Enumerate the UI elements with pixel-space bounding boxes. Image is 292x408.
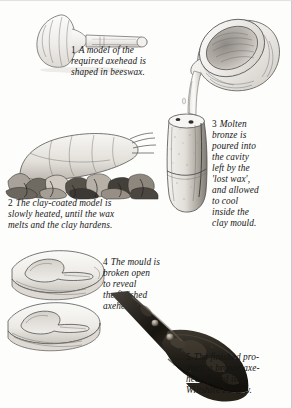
caption-panel-5: 5The finished pro- duct: a bronze axe- h… [186, 352, 290, 396]
caption-number-4: 4 [103, 257, 111, 267]
caption-panel-3: 3Molten bronze is poured into the cavity… [212, 119, 290, 229]
caption-number-2: 2 [8, 198, 16, 208]
illustration-crucible-pouring [170, 5, 292, 117]
caption-number-5: 5 [186, 352, 194, 362]
illustration-clay-model-in-fire [6, 127, 158, 199]
caption-text-1: A model of the required axehead is shape… [71, 45, 146, 77]
caption-text-3: Molten bronze is poured into the cavity … [212, 119, 259, 228]
caption-number-3: 3 [212, 119, 220, 129]
caption-text-2: The clay-coated model is slowly heated, … [8, 198, 114, 230]
caption-number-1: 1 [71, 45, 79, 55]
caption-text-5: The finished pro- duct: a bronze axe- he… [186, 352, 260, 395]
illustration-mould-halves [4, 247, 112, 347]
caption-panel-2: 2The clay-coated model is slowly heated,… [8, 198, 173, 231]
figure-page: 1A model of the required axehead is shap… [0, 0, 292, 408]
